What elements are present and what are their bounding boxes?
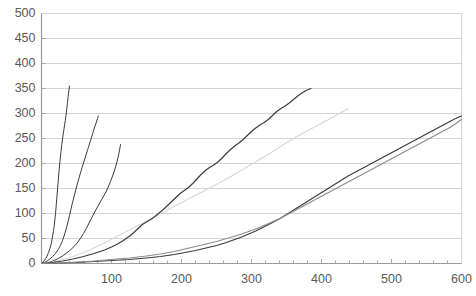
x-tick-label: 400: [292, 273, 352, 286]
y-tick-label: 0: [29, 257, 36, 270]
gridlines: [42, 14, 462, 239]
data-series-group: [42, 86, 462, 264]
x-tick-label: 200: [152, 273, 212, 286]
y-tick-label: 300: [15, 107, 36, 120]
series-line-curve-1: [42, 86, 70, 264]
y-tick-label: 400: [15, 57, 36, 70]
x-tick-label: 600: [432, 273, 476, 286]
plot-area: [0, 0, 476, 296]
x-tick-label: 500: [362, 273, 422, 286]
y-tick-label: 500: [15, 7, 36, 20]
series-line-curve-5: [42, 89, 312, 264]
y-tick-label: 200: [15, 157, 36, 170]
y-tick-label: 350: [15, 82, 36, 95]
y-tick-label: 100: [15, 207, 36, 220]
y-tick-label: 50: [22, 232, 36, 245]
line-chart: 050100150200250300350400450500 100200300…: [0, 0, 476, 296]
series-line-curve-3: [42, 145, 121, 264]
x-tick-label: 300: [222, 273, 282, 286]
series-line-curve-7: [42, 120, 462, 264]
y-tick-label: 450: [15, 32, 36, 45]
series-line-curve-4: [42, 109, 349, 264]
y-tick-label: 150: [15, 182, 36, 195]
x-tick-label: 100: [82, 273, 142, 286]
y-tick-label: 250: [15, 132, 36, 145]
